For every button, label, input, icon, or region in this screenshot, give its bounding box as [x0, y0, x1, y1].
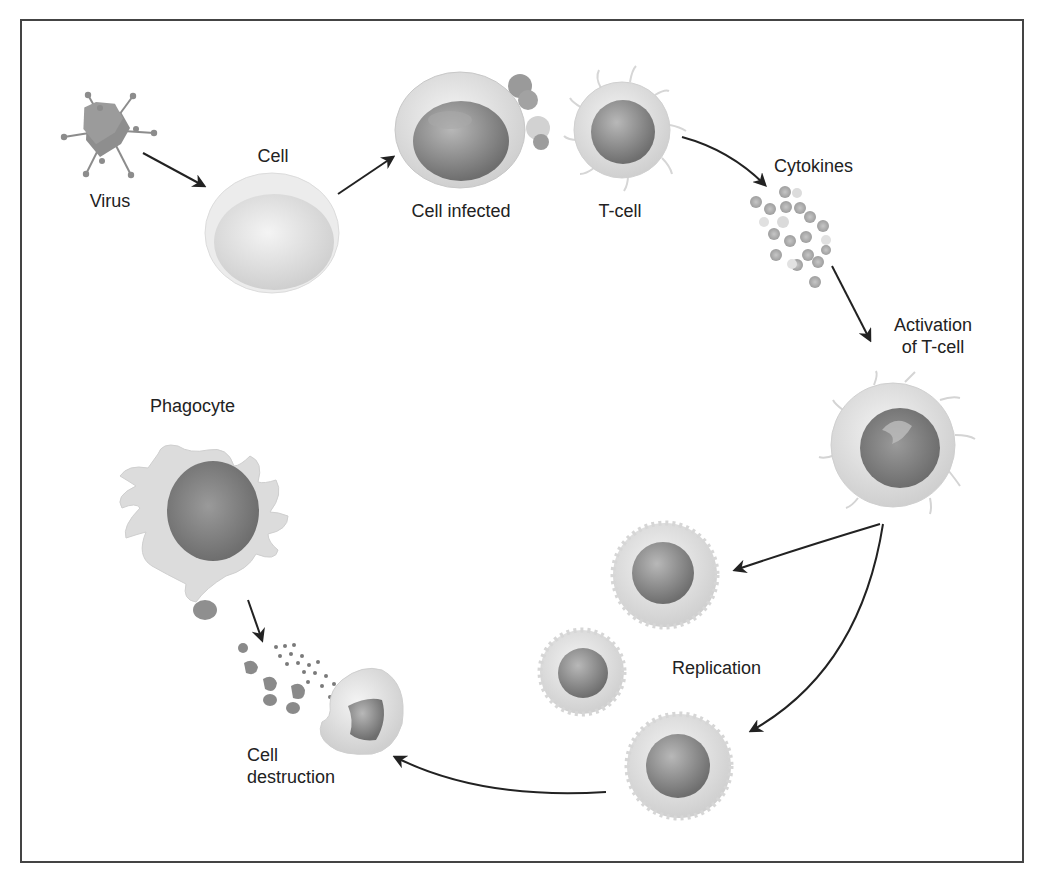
replicated-cell-top-icon — [613, 523, 717, 627]
label-replication: Replication — [672, 658, 761, 679]
arrow-replication-to-destruction — [395, 757, 606, 793]
replicated-cell-left-icon — [540, 630, 624, 714]
arrow-activation-to-replication-bottom — [751, 524, 883, 731]
replicated-cell-bottom-icon — [627, 714, 731, 818]
label-cell: Cell — [257, 146, 288, 167]
cell-icon — [205, 173, 339, 293]
virus-icon — [61, 92, 157, 178]
label-virus: Virus — [90, 191, 131, 212]
arrow-t-cell-to-cytokines — [682, 137, 765, 185]
diagram-canvas — [0, 0, 1038, 884]
label-destruction-line1: Cell — [247, 745, 278, 766]
phagocyte-icon — [120, 445, 288, 620]
arrow-virus-to-cell — [143, 153, 204, 186]
arrow-phagocyte-to-destruction — [248, 600, 262, 640]
label-cytokines: Cytokines — [774, 156, 853, 177]
arrow-cell-to-cell-infected — [338, 157, 393, 194]
activated-t-cell-icon — [819, 371, 975, 514]
label-activation-line2: of T-cell — [902, 337, 965, 358]
label-t-cell: T-cell — [598, 201, 641, 222]
arrow-activation-to-replication-top — [735, 524, 880, 570]
cell-infected-icon — [395, 72, 550, 188]
label-phagocyte: Phagocyte — [150, 396, 235, 417]
arrow-cytokines-to-activation — [832, 266, 870, 340]
cytokines-icon — [750, 186, 831, 288]
cell-destruction-icon — [238, 643, 403, 754]
label-cell-infected: Cell infected — [411, 201, 510, 222]
t-cell-icon — [564, 66, 686, 191]
label-activation-line1: Activation — [894, 315, 972, 336]
label-destruction-line2: destruction — [247, 767, 335, 788]
